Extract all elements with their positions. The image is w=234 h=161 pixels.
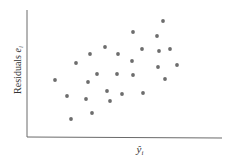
data-point: [90, 111, 94, 115]
y-axis-label: Residuals ei: [12, 46, 25, 94]
data-point: [130, 59, 134, 63]
data-point: [86, 80, 90, 84]
data-point: [157, 49, 161, 53]
data-point: [163, 77, 167, 81]
data-point: [115, 72, 119, 76]
data-point: [131, 30, 135, 34]
data-point: [141, 91, 145, 95]
residual-scatter-plot: Residuals ei ŷi: [0, 0, 234, 161]
data-point: [65, 94, 69, 98]
x-axis-label: ŷi: [136, 143, 144, 157]
data-point: [88, 52, 92, 56]
data-point: [84, 97, 88, 101]
data-point: [95, 72, 99, 76]
x-axis: [27, 137, 222, 138]
data-point: [103, 45, 107, 49]
data-point: [155, 34, 159, 38]
data-point: [120, 92, 124, 96]
data-point: [116, 52, 120, 56]
data-point: [131, 73, 135, 77]
data-point: [156, 65, 160, 69]
data-point: [69, 117, 73, 121]
data-point: [53, 78, 57, 82]
data-point: [105, 89, 109, 93]
data-point: [140, 47, 144, 51]
data-point: [74, 61, 78, 65]
data-points: [53, 19, 179, 121]
data-point: [161, 19, 165, 23]
data-point: [168, 47, 172, 51]
data-point: [108, 99, 112, 103]
data-point: [175, 63, 179, 67]
